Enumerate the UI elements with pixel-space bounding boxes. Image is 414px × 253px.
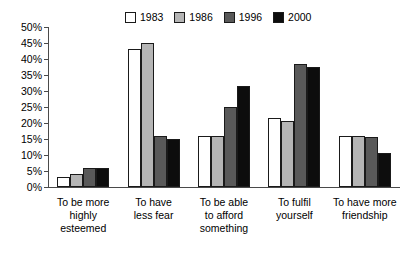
- bar-1983-cat0: [57, 177, 70, 187]
- bar-1986-cat3: [281, 121, 294, 187]
- y-tick-label: 45%: [21, 37, 42, 49]
- y-tick-label: 30%: [21, 85, 42, 97]
- bar-1996-cat4: [365, 137, 378, 187]
- y-tick-label: 35%: [21, 69, 42, 81]
- y-tick-mark: [44, 75, 48, 76]
- plot-area: 0%5%10%15%20%25%30%35%40%45%50%: [48, 27, 400, 187]
- legend-entry: 1986: [174, 12, 212, 23]
- bar-1983-cat1: [128, 49, 141, 187]
- y-axis-line: [48, 27, 49, 187]
- legend-entry: 2000: [273, 12, 311, 23]
- y-tick-label: 10%: [21, 149, 42, 161]
- legend-entry: 1996: [224, 12, 262, 23]
- category-label-line: esteemed: [43, 222, 123, 235]
- y-tick-mark: [44, 139, 48, 140]
- bar-1986-cat2: [211, 136, 224, 187]
- legend-swatch-1996: [224, 12, 235, 23]
- category-label-line: To have more: [325, 196, 405, 209]
- legend-label: 1986: [189, 12, 212, 23]
- y-tick-mark: [44, 27, 48, 28]
- chart-legend: 1983198619962000: [125, 10, 311, 24]
- y-tick-mark: [44, 59, 48, 60]
- y-tick-mark: [44, 187, 48, 188]
- y-tick-label: 5%: [27, 165, 42, 177]
- bar-chart-figure: 1983198619962000 0%5%10%15%20%25%30%35%4…: [0, 0, 414, 253]
- legend-entry: 1983: [125, 12, 163, 23]
- y-tick-mark: [44, 171, 48, 172]
- y-tick-mark: [44, 91, 48, 92]
- category-label-line: To be able: [184, 196, 264, 209]
- category-label-line: To have: [113, 196, 193, 209]
- bar-2000-cat3: [307, 67, 320, 187]
- category-label-line: friendship: [325, 209, 405, 222]
- bar-2000-cat1: [167, 139, 180, 187]
- category-label-line: To be more: [43, 196, 123, 209]
- legend-swatch-1983: [125, 12, 136, 23]
- legend-label: 2000: [288, 12, 311, 23]
- y-tick-label: 0%: [27, 181, 42, 193]
- y-tick-mark: [44, 123, 48, 124]
- bar-1986-cat4: [352, 136, 365, 187]
- bar-1996-cat1: [154, 136, 167, 187]
- y-tick-label: 40%: [21, 53, 42, 65]
- y-tick-mark: [44, 107, 48, 108]
- y-tick-mark: [44, 43, 48, 44]
- legend-swatch-1986: [174, 12, 185, 23]
- bar-1983-cat3: [268, 118, 281, 187]
- category-label-0: To be morehighlyesteemed: [43, 196, 123, 235]
- category-label-line: to afford: [184, 209, 264, 222]
- category-label-line: less fear: [113, 209, 193, 222]
- bar-2000-cat2: [237, 86, 250, 187]
- y-tick-label: 20%: [21, 117, 42, 129]
- bar-1983-cat4: [339, 136, 352, 187]
- category-label-line: something: [184, 222, 264, 235]
- bar-2000-cat4: [378, 153, 391, 187]
- bar-1983-cat2: [198, 136, 211, 187]
- bar-1996-cat3: [294, 64, 307, 187]
- legend-label: 1996: [239, 12, 262, 23]
- y-tick-label: 15%: [21, 133, 42, 145]
- category-label-3: To fulfilyourself: [254, 196, 334, 222]
- category-label-4: To have morefriendship: [325, 196, 405, 222]
- x-axis-line: [48, 187, 400, 188]
- category-label-line: yourself: [254, 209, 334, 222]
- y-tick-label: 50%: [21, 21, 42, 33]
- category-label-1: To haveless fear: [113, 196, 193, 222]
- bar-1996-cat0: [83, 168, 96, 187]
- category-label-line: highly: [43, 209, 123, 222]
- bar-1986-cat1: [141, 43, 154, 187]
- bar-1986-cat0: [70, 174, 83, 187]
- category-label-2: To be ableto affordsomething: [184, 196, 264, 235]
- bar-2000-cat0: [96, 168, 109, 187]
- y-tick-mark: [44, 155, 48, 156]
- bar-1996-cat2: [224, 107, 237, 187]
- legend-swatch-2000: [273, 12, 284, 23]
- legend-label: 1983: [140, 12, 163, 23]
- y-tick-label: 25%: [21, 101, 42, 113]
- category-label-line: To fulfil: [254, 196, 334, 209]
